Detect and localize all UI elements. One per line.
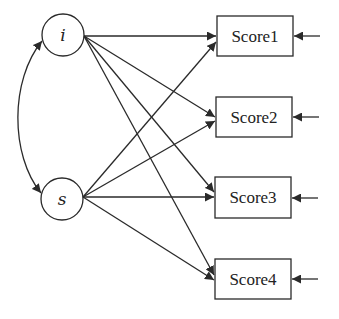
covariance-arrow-i-s [18,41,42,193]
path-i-score2 [84,36,215,117]
observed-node-score3: Score3 [215,177,291,218]
observed-label-score1: Score1 [231,27,278,46]
path-i-score3 [84,36,214,192]
path-diagram: i s Score1 Score2 Score3 Score4 [0,0,339,319]
loadings-from-s [83,42,216,280]
observed-label-score3: Score3 [229,188,276,207]
path-s-score1 [83,42,216,197]
latent-label-s: s [58,189,67,209]
path-s-score2 [83,121,215,197]
observed-node-score2: Score2 [216,97,292,137]
latent-node-s: s [41,178,83,220]
latent-node-i: i [42,14,84,56]
residual-arrows [292,36,320,279]
observed-node-score1: Score1 [217,16,293,56]
latent-label-i: i [60,25,65,45]
observed-label-score2: Score2 [230,108,277,127]
observed-node-score4: Score4 [215,259,291,299]
observed-label-score4: Score4 [229,270,277,289]
